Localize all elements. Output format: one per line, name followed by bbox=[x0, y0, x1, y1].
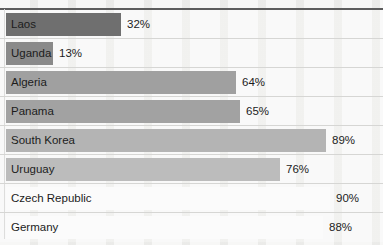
bar-row: Germany88% bbox=[0, 213, 383, 242]
bar-category-label: Laos bbox=[11, 10, 36, 39]
bar-value-label: 89% bbox=[332, 126, 355, 155]
bar-category-label: Uganda bbox=[11, 39, 51, 68]
bar-row: Uruguay76% bbox=[0, 155, 383, 184]
bar-value-label: 88% bbox=[329, 213, 352, 242]
bar-value-label: 13% bbox=[59, 39, 82, 68]
bar-category-label: Czech Republic bbox=[11, 184, 92, 213]
bar-row: Panama65% bbox=[0, 97, 383, 126]
bar-category-label: Panama bbox=[11, 97, 54, 126]
bar-value-label: 90% bbox=[336, 184, 359, 213]
bar-value-label: 76% bbox=[286, 155, 309, 184]
bar-row: Laos32% bbox=[0, 10, 383, 39]
bar-rows: Laos32%Uganda13%Algeria64%Panama65%South… bbox=[0, 10, 383, 242]
bar-value-label: 64% bbox=[242, 68, 265, 97]
bar-category-label: Algeria bbox=[11, 68, 47, 97]
bar-value-label: 32% bbox=[127, 10, 150, 39]
bar-row: Czech Republic90% bbox=[0, 184, 383, 213]
bar-category-label: Germany bbox=[11, 213, 58, 242]
bar-category-label: Uruguay bbox=[11, 155, 54, 184]
bar-category-label: South Korea bbox=[11, 126, 75, 155]
bar-row: Algeria64% bbox=[0, 68, 383, 97]
bar-chart: Laos32%Uganda13%Algeria64%Panama65%South… bbox=[0, 0, 383, 245]
bar-row: South Korea89% bbox=[0, 126, 383, 155]
bar-row: Uganda13% bbox=[0, 39, 383, 68]
bar-value-label: 65% bbox=[246, 97, 269, 126]
row-background bbox=[0, 39, 383, 67]
